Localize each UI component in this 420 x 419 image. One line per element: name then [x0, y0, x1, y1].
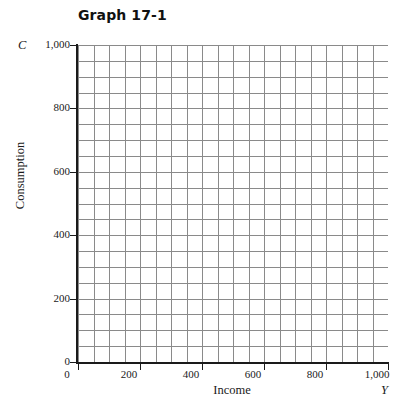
y-tick-label: 200 — [10, 292, 70, 304]
y-tick-mark — [70, 235, 77, 236]
x-tick-label: 0 — [37, 368, 97, 380]
x-tick-label: 400 — [161, 368, 221, 380]
x-tick-label: 200 — [99, 368, 159, 380]
x-axis-line — [76, 362, 389, 364]
x-tick-mark — [388, 364, 389, 370]
grid-lines — [78, 45, 388, 362]
y-tick-label: 800 — [10, 101, 70, 113]
y-tick-mark — [70, 172, 77, 173]
x-tick-mark — [202, 364, 203, 370]
y-tick-mark — [70, 45, 77, 46]
x-tick-label: 600 — [223, 368, 283, 380]
y-tick-label: 0 — [10, 355, 70, 367]
x-axis-title: Income — [172, 383, 292, 398]
page-title: Graph 17-1 — [78, 7, 167, 23]
plot-area — [78, 45, 388, 362]
y-tick-mark — [70, 108, 77, 109]
y-tick-label: 1,000 — [10, 38, 70, 50]
graph-figure: Graph 17-1 C 02004006008001,000 02004006… — [0, 0, 420, 419]
y-tick-mark — [70, 362, 77, 363]
y-axis-title: Consumption — [13, 116, 28, 236]
x-tick-label: 800 — [285, 368, 345, 380]
x-tick-label: 1,000 — [347, 368, 407, 380]
x-tick-mark — [264, 364, 265, 370]
y-tick-mark — [70, 299, 77, 300]
x-tick-mark — [78, 364, 79, 370]
x-axis-symbol: Y — [381, 383, 388, 398]
x-tick-mark — [140, 364, 141, 370]
x-tick-mark — [326, 364, 327, 370]
